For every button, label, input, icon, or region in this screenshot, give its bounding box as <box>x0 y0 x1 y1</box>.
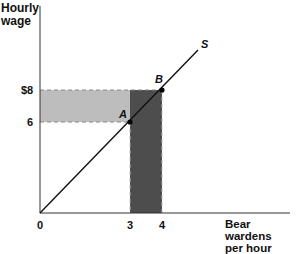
tick-x-0: 0 <box>37 219 43 231</box>
tick-y-8: $8 <box>21 84 33 96</box>
tick-y-6: 6 <box>27 116 33 128</box>
supply-curve <box>40 50 198 213</box>
point-a-marker <box>127 119 132 124</box>
tick-x-3: 3 <box>127 219 133 231</box>
x-axis-label-line2: per hour <box>225 242 298 254</box>
x-axis-label: Bear wardens per hour <box>225 218 298 254</box>
tick-x-4: 4 <box>159 219 165 231</box>
x-axis-label-line1: Bear wardens <box>225 218 298 242</box>
curve-label-s: S <box>201 38 208 50</box>
point-a-label: A <box>119 108 127 120</box>
light-shaded-area <box>40 90 130 122</box>
point-b-marker <box>159 87 164 92</box>
point-b-label: B <box>155 73 163 85</box>
y-axis-label: Hourly wage <box>1 2 39 28</box>
dark-shaded-area <box>130 90 162 213</box>
y-axis-label-line2: wage <box>1 15 39 28</box>
